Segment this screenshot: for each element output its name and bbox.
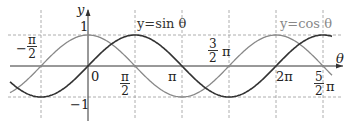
half-pi-tick: π 2 — [120, 71, 130, 97]
cos-curve-label: y=cos θ — [280, 17, 332, 30]
five-half-pi-suffix: π — [326, 80, 335, 93]
five-half-pi-tick: 5 2 — [314, 71, 324, 97]
neg-half-pi-sign: − — [16, 42, 27, 55]
two-pi-tick: 2π — [276, 70, 293, 83]
neg-half-pi-tick: π 2 — [27, 34, 37, 60]
sine-cosine-graph: y 1 −1 0 θ y=sin θ y=cos θ − π 2 π 2 π 3… — [0, 0, 353, 124]
three-half-pi-suffix: π — [222, 45, 231, 58]
pi-tick: π — [168, 70, 177, 83]
origin-label: 0 — [91, 70, 99, 83]
sin-curve-label: y=sin θ — [137, 17, 186, 30]
three-half-pi-tick: 3 2 — [208, 38, 218, 64]
x-axis-label: θ — [336, 52, 344, 65]
y-tick-minus-1: −1 — [70, 98, 89, 111]
y-axis-label: y — [77, 3, 84, 16]
y-tick-1: 1 — [80, 20, 88, 33]
